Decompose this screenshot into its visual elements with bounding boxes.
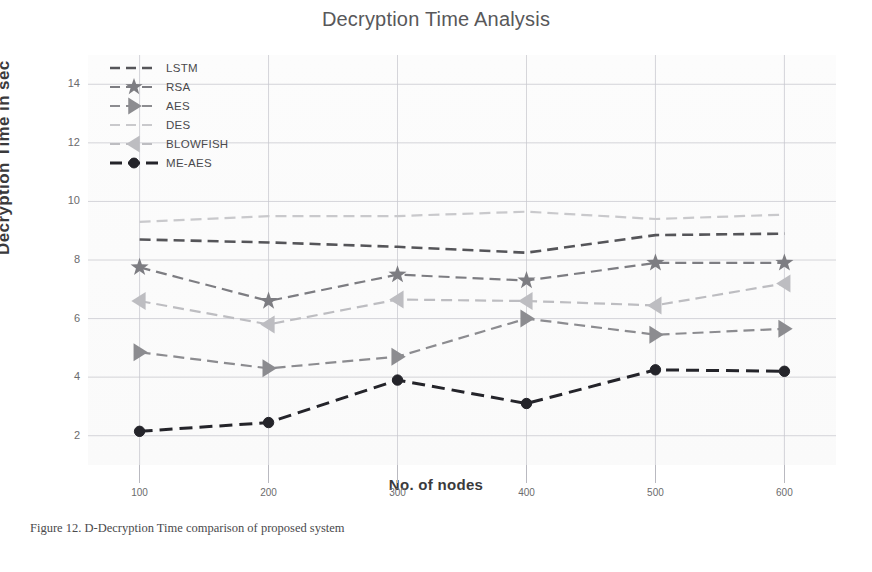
data-point-marker [778,320,792,338]
legend-item-aes[interactable]: AES [108,96,298,115]
x-tick-label: 100 [120,487,160,498]
data-point-marker [134,426,144,436]
legend-key-icon [108,97,160,115]
legend-key-icon [108,116,160,134]
legend-key-icon [108,135,160,153]
series-line [140,263,785,301]
data-point-marker [129,158,139,168]
legend-item-lstm[interactable]: LSTM [108,58,298,77]
y-tick-label: 12 [52,136,80,148]
data-point-marker [776,274,790,292]
legend-key-swatch [108,59,160,77]
legend-item-label: BLOWFISH [166,138,228,150]
legend-item-rsa[interactable]: RSA [108,77,298,96]
legend-key-swatch [108,116,160,134]
x-tick-mark [784,465,785,483]
data-point-marker [520,310,534,328]
data-point-marker [263,359,277,377]
legend-key-icon [108,59,160,77]
series-line [140,319,785,369]
data-point-marker [131,292,145,310]
data-point-marker [392,375,402,385]
x-tick-mark [526,465,527,483]
series-des [140,212,785,222]
y-tick-label: 6 [52,312,80,324]
legend-key-swatch [108,135,160,153]
figure-caption: Figure 12. D-Decryption Time comparison … [30,520,842,538]
series-lstm [140,234,785,253]
x-tick-mark [397,465,398,483]
data-point-marker [779,366,789,376]
data-point-marker [647,296,661,314]
legend-key-swatch [108,78,160,96]
chart-figure: Decryption Time Analysis Decryption Time… [0,0,872,500]
data-point-marker [128,97,142,114]
series-line [140,370,785,432]
data-point-marker [521,398,531,408]
x-tick-label: 200 [249,487,289,498]
x-tick-label: 600 [764,487,804,498]
series-aes [134,310,793,378]
y-tick-label: 10 [52,194,80,206]
legend-item-label: RSA [166,81,191,93]
data-point-marker [263,417,273,427]
chart-title: Decryption Time Analysis [0,8,872,31]
series-me-aes [134,365,789,437]
x-tick-mark [655,465,656,483]
y-tick-label: 14 [52,77,80,89]
data-point-marker [126,135,140,152]
series-blowfish [131,274,790,333]
legend-item-blowfish[interactable]: BLOWFISH [108,134,298,153]
data-point-marker [649,326,663,344]
legend-item-label: LSTM [166,62,198,74]
data-point-marker [125,78,142,94]
screenshot-root: Decryption Time Analysis Decryption Time… [0,0,872,572]
legend-item-des[interactable]: DES [108,115,298,134]
legend-key-icon [108,154,160,172]
y-tick-label: 4 [52,370,80,382]
legend-key-swatch [108,154,160,172]
chart-legend: LSTMRSAAESDESBLOWFISHME-AES [108,58,298,172]
data-point-marker [389,291,403,309]
legend-key-swatch [108,97,160,115]
series-line [140,212,785,222]
data-point-marker [650,365,660,375]
legend-item-label: ME-AES [166,157,212,169]
legend-item-label: DES [166,119,191,131]
y-tick-label: 8 [52,253,80,265]
legend-item-me-aes[interactable]: ME-AES [108,153,298,172]
data-point-marker [391,348,405,366]
x-tick-mark [139,465,140,483]
x-tick-label: 400 [506,487,546,498]
data-point-marker [134,343,148,361]
legend-key-icon [108,78,160,96]
data-point-marker [518,292,532,310]
series-line [140,234,785,253]
y-axis-label: Decryption Time in sec [0,60,14,255]
x-tick-mark [268,465,269,483]
y-tick-label: 2 [52,429,80,441]
x-tick-label: 300 [378,487,418,498]
x-tick-label: 500 [635,487,675,498]
legend-item-label: AES [166,100,190,112]
